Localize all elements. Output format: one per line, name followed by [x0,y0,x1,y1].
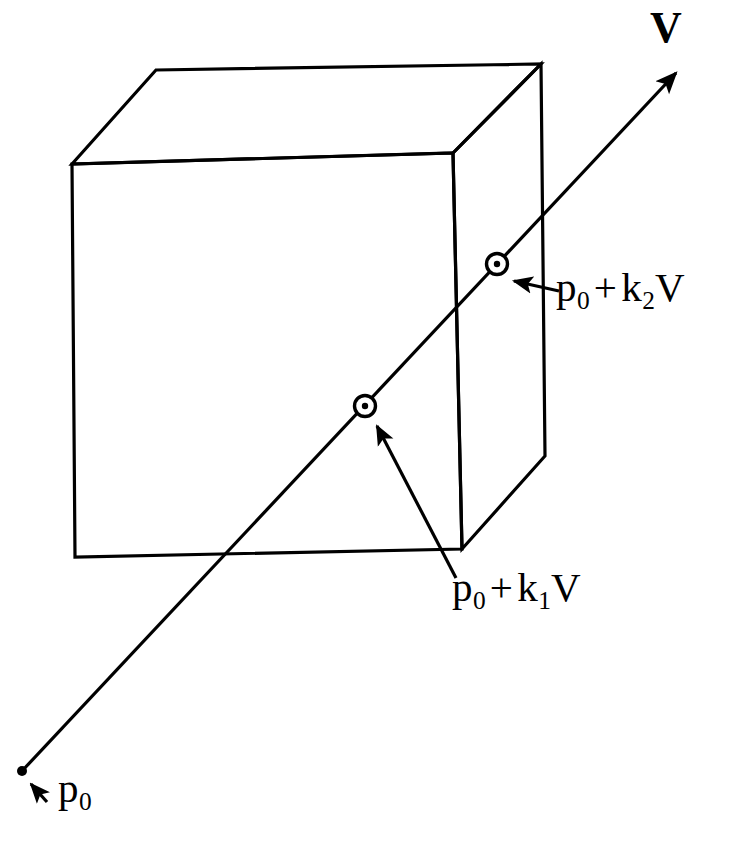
p0-subscript-zero: 0 [577,286,590,314]
pointer-arrow-p0-k2-v [514,281,559,291]
diagram-canvas [0,0,742,852]
point-label-p0: p0 [58,768,92,814]
p0-base-text: p [556,264,577,310]
k-base-text: k [517,564,538,610]
box-front-face [72,153,462,557]
box-right-face [453,64,545,549]
k-base-text: k [621,264,642,310]
box-top-face [72,64,541,164]
p0-base-text: p [452,564,473,610]
point-label-p0-k2-v: p0+k2V [556,267,685,313]
k-subscript-two: 2 [642,286,655,314]
point-p0-k1-v-center-dot [362,403,368,409]
point-label-p0-k1-v: p0+k1V [452,567,581,613]
plus-operator: + [590,264,622,310]
k-subscript-one: 1 [538,586,551,614]
point-p0-k2-v-center-dot [494,261,500,267]
p0-subscript-zero: 0 [473,586,486,614]
plus-operator: + [486,564,518,610]
pointer-arrow-p0 [31,784,47,802]
vector-v-label: V [650,6,682,50]
point-p0-marker [17,766,27,776]
v-vector-text: V [551,564,581,610]
vector-v-text: V [650,3,682,52]
v-vector-text: V [655,264,685,310]
pointer-arrow-p0-k1-v [377,426,456,578]
ray-line [22,73,676,771]
p0-subscript-zero: 0 [79,787,92,815]
p0-base-text: p [58,765,79,811]
